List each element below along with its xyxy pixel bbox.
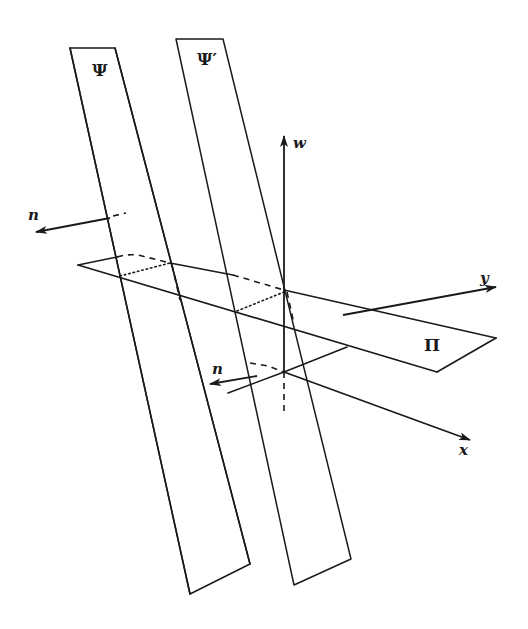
label-w: w xyxy=(293,134,307,152)
label-psi: Ψ xyxy=(92,60,108,80)
label-pi: Π xyxy=(424,335,440,355)
normal-vector-upper xyxy=(36,218,110,232)
label-x: x xyxy=(458,441,469,459)
label-psi-prime: Ψ′ xyxy=(197,49,218,69)
planes-diagram: Ψ Ψ′ Π w y x n n xyxy=(0,0,528,629)
label-n-lower: n xyxy=(212,360,223,378)
label-y: y xyxy=(479,269,490,287)
label-n-upper: n xyxy=(28,206,39,224)
y-axis xyxy=(343,287,496,315)
